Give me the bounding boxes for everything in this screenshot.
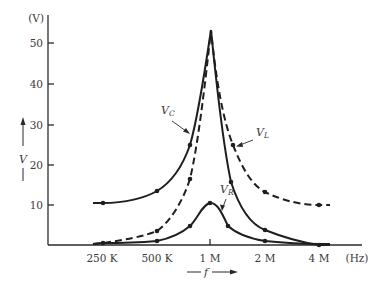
- x-tick-250k: 250 K: [86, 252, 117, 264]
- y-tick-20: 20: [30, 159, 43, 171]
- y-axis-title: V: [19, 117, 28, 181]
- x-tick-labels: 250 K 500 K 1 M 2 M 4 M (Hz): [86, 252, 368, 264]
- vl-label: VL: [256, 126, 269, 140]
- y-tick-30: 30: [30, 119, 43, 131]
- x-tick-1m: 1 M: [200, 252, 221, 264]
- up-arrow-icon: [21, 117, 26, 125]
- x-unit-label: (Hz): [346, 252, 369, 264]
- right-arrow-icon: [230, 270, 238, 275]
- label-vr: VR: [220, 183, 234, 211]
- data-markers: [101, 143, 322, 248]
- x-axis-title: f: [187, 266, 238, 279]
- x-axis-symbol: f: [203, 266, 210, 279]
- label-vc: VC: [161, 104, 190, 134]
- x-tick-2m: 2 M: [255, 252, 276, 264]
- x-tick-500k: 500 K: [141, 252, 172, 264]
- y-tick-40: 40: [30, 78, 43, 90]
- x-tick-4m: 4 M: [309, 252, 330, 264]
- resonance-voltage-chart: 10 20 30 40 50 (V) V 250 K 500 K 1 M 2 M…: [0, 0, 387, 287]
- y-tick-labels: 10 20 30 40 50 (V): [28, 12, 44, 211]
- y-unit-label: (V): [28, 12, 44, 24]
- y-tick-50: 50: [30, 37, 43, 49]
- vc-label: VC: [161, 104, 175, 118]
- y-axis-symbol: V: [19, 153, 28, 166]
- y-tick-10: 10: [30, 199, 43, 211]
- pointer-arrow-icon: [183, 128, 190, 134]
- series-vl-line: [93, 30, 330, 244]
- pointer-arrow-icon: [236, 142, 243, 147]
- axes: [48, 15, 362, 245]
- label-vl: VL: [236, 126, 269, 147]
- series-vc-line: [93, 30, 330, 245]
